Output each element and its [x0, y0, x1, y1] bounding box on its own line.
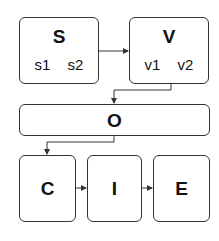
edges-layer — [0, 0, 219, 241]
edge-o-c — [47, 136, 114, 154]
edge-v-o — [114, 84, 171, 103]
